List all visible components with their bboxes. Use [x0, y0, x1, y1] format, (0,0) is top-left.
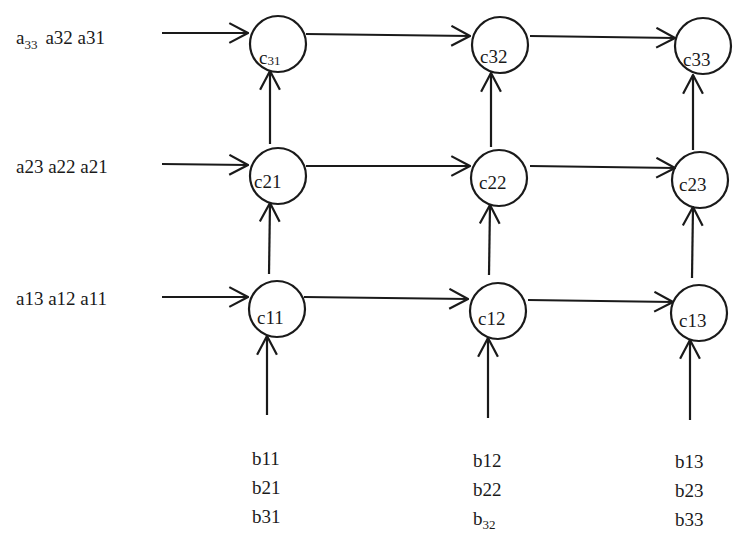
arrow-row2-in: [162, 164, 248, 165]
cell-c31-label: c31: [259, 47, 280, 68]
cell-c22-label: c22: [479, 172, 506, 193]
row2-input-label: a23 a22 a21: [16, 156, 108, 177]
arrow-c11-c12: [304, 297, 468, 299]
col1-input-b11: b11: [252, 448, 280, 469]
cell-c32-label: c32: [480, 46, 507, 67]
col2-input-b22: b22: [473, 479, 502, 500]
col3-input-b13: b13: [675, 451, 704, 472]
col3-input-b23: b23: [675, 480, 704, 501]
col2-input-b12: b12: [473, 450, 502, 471]
col1-input-b31: b31: [252, 506, 281, 527]
arrow-c12-c13: [528, 300, 673, 302]
arrow-c11-c21: [269, 203, 270, 274]
col2-input-b32: b32: [473, 508, 496, 532]
cell-c23-label: c23: [679, 174, 706, 195]
cell-c11-label: c11: [257, 307, 284, 328]
arrow-c22-c23: [530, 166, 675, 168]
arrow-c13-c23: [692, 207, 693, 278]
cell-c33-label: c33: [683, 49, 710, 70]
col3-input-b33: b33: [675, 509, 704, 530]
arrow-c31-c32: [306, 34, 470, 36]
row3-input-label: a33a32 a31: [16, 27, 105, 52]
systolic-array-diagram: a33a32 a31 a23 a22 a21 a13 a12 a11 c31 c…: [0, 0, 750, 553]
cell-c12-label: c12: [478, 308, 505, 329]
cell-c13-label: c13: [679, 310, 706, 331]
col1-input-b21: b21: [252, 477, 281, 498]
arrow-c32-c33: [530, 36, 675, 38]
row1-input-label: a13 a12 a11: [16, 288, 107, 309]
arrow-c12-c22: [489, 205, 490, 275]
cell-c21-label: c21: [254, 171, 281, 192]
